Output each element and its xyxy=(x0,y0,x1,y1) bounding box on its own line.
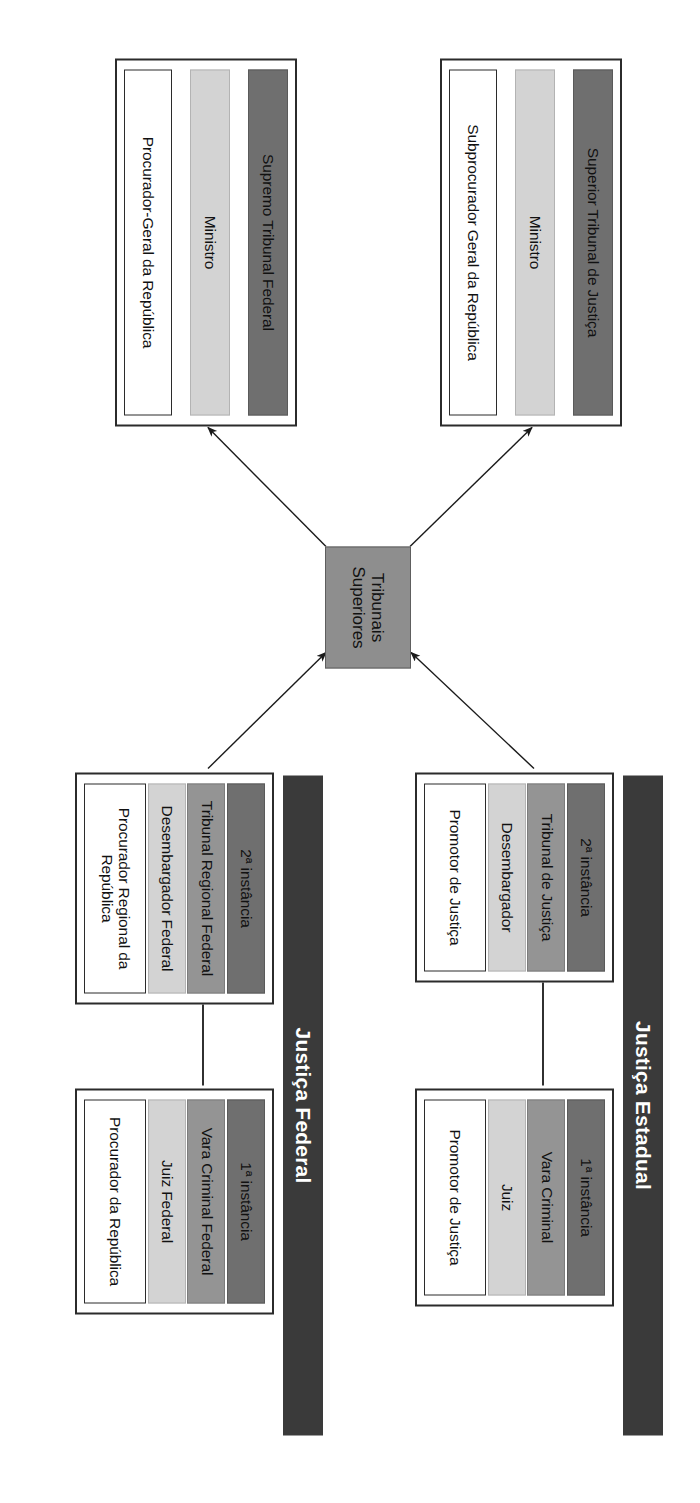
block-federal-1a-instancia[interactable]: 1ª instância Vara Criminal Federal Juiz … xyxy=(75,1088,274,1314)
arrow-superiores-to-stf xyxy=(208,427,326,546)
block-estadual-1a-instancia[interactable]: 1ª instância Vara Criminal Juiz Promotor… xyxy=(415,1088,614,1306)
superior-court-card-stj[interactable]: Superior Tribunal de Justiça Ministro Su… xyxy=(440,58,622,426)
branch-label-justica-estadual: Justiça Estadual xyxy=(623,775,663,1435)
branch-label-justica-federal: Justiça Federal xyxy=(283,775,323,1435)
superior-court-card-stf[interactable]: Supremo Tribunal Federal Ministro Procur… xyxy=(115,58,297,426)
stf-judge-bar: Ministro xyxy=(190,69,230,415)
estadual-2a-court-bar: Tribunal de Justiça xyxy=(527,783,565,971)
federal-1a-judge-bar: Juiz Federal xyxy=(148,1099,186,1303)
branch-label-estadual-text: Justiça Estadual xyxy=(631,1021,655,1190)
stf-prosecutor-bar: Procurador-Geral da República xyxy=(124,69,172,415)
federal-1a-court-bar: Vara Criminal Federal xyxy=(187,1099,225,1303)
estadual-1a-level-bar: 1ª instância xyxy=(567,1099,605,1295)
arrow-superiores-to-stj xyxy=(410,427,532,546)
federal-1a-level-bar: 1ª instância xyxy=(227,1099,265,1303)
arrow-estadual-to-superiores xyxy=(411,652,534,768)
tribunais-superiores-label: Tribunais Superiores xyxy=(349,551,387,663)
federal-1a-prosecutor-bar: Procurador da República xyxy=(84,1099,146,1303)
tribunais-superiores-box[interactable]: Tribunais Superiores xyxy=(325,546,411,668)
federal-2a-prosecutor-bar: Procurador Regional da República xyxy=(84,783,146,993)
federal-2a-level-bar: 2ª instância xyxy=(227,783,265,993)
arrow-federal-to-superiores xyxy=(208,652,326,768)
block-federal-2a-instancia[interactable]: 2ª instância Tribunal Regional Federal D… xyxy=(75,772,274,1004)
stj-court-name-bar: Superior Tribunal de Justiça xyxy=(573,69,613,415)
estadual-2a-judge-bar: Desembargador xyxy=(488,783,526,971)
federal-2a-court-bar: Tribunal Regional Federal xyxy=(187,783,225,993)
estadual-2a-level-bar: 2ª instância xyxy=(567,783,605,971)
federal-2a-judge-bar: Desembargador Federal xyxy=(148,783,186,993)
stf-court-name-bar: Supremo Tribunal Federal xyxy=(248,69,288,415)
estadual-1a-court-bar: Vara Criminal xyxy=(527,1099,565,1295)
branch-label-federal-text: Justiça Federal xyxy=(291,1027,315,1183)
block-estadual-2a-instancia[interactable]: 2ª instância Tribunal de Justiça Desemba… xyxy=(415,772,614,982)
estadual-2a-prosecutor-bar: Promotor de Justiça xyxy=(424,783,486,971)
stj-judge-bar: Ministro xyxy=(515,69,555,415)
estadual-1a-prosecutor-bar: Promotor de Justiça xyxy=(424,1099,486,1295)
estadual-1a-judge-bar: Juiz xyxy=(488,1099,526,1295)
diagram-canvas: Superior Tribunal de Justiça Ministro Su… xyxy=(0,0,700,1503)
stj-prosecutor-bar: Subprocurador Geral da República xyxy=(449,69,497,415)
